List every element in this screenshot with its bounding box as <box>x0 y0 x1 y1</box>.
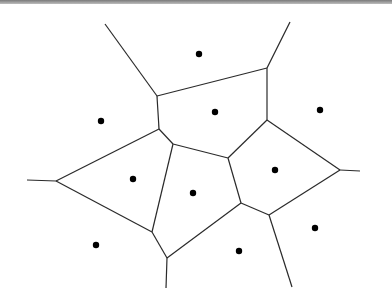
voronoi-site-dot <box>98 118 104 124</box>
voronoi-edge <box>167 203 241 258</box>
voronoi-site-dot <box>93 242 99 248</box>
voronoi-edge <box>173 144 228 158</box>
voronoi-site-dot <box>196 51 202 57</box>
voronoi-edge <box>56 181 152 232</box>
voronoi-edges <box>27 22 360 288</box>
voronoi-site-dot <box>312 225 318 231</box>
voronoi-edge <box>159 129 173 144</box>
voronoi-edge <box>157 68 267 96</box>
voronoi-edge <box>228 120 267 158</box>
voronoi-edge <box>105 24 157 96</box>
voronoi-edge <box>340 170 360 171</box>
voronoi-edge <box>56 129 159 181</box>
voronoi-site-dot <box>212 109 218 115</box>
voronoi-site-dot <box>317 107 323 113</box>
voronoi-edge <box>157 96 159 129</box>
voronoi-edge <box>267 120 340 170</box>
voronoi-site-dot <box>130 176 136 182</box>
voronoi-edge <box>269 170 340 215</box>
voronoi-edge <box>152 232 167 258</box>
voronoi-edge <box>241 203 269 215</box>
voronoi-site-dot <box>190 190 196 196</box>
voronoi-site-dot <box>272 167 278 173</box>
voronoi-edge <box>166 258 167 288</box>
voronoi-diagram <box>0 0 392 300</box>
voronoi-edge <box>267 22 290 68</box>
voronoi-site-dot <box>236 248 242 254</box>
voronoi-edge <box>27 180 56 181</box>
voronoi-edge <box>228 158 241 203</box>
voronoi-edge <box>269 215 292 287</box>
voronoi-edge <box>152 144 173 232</box>
